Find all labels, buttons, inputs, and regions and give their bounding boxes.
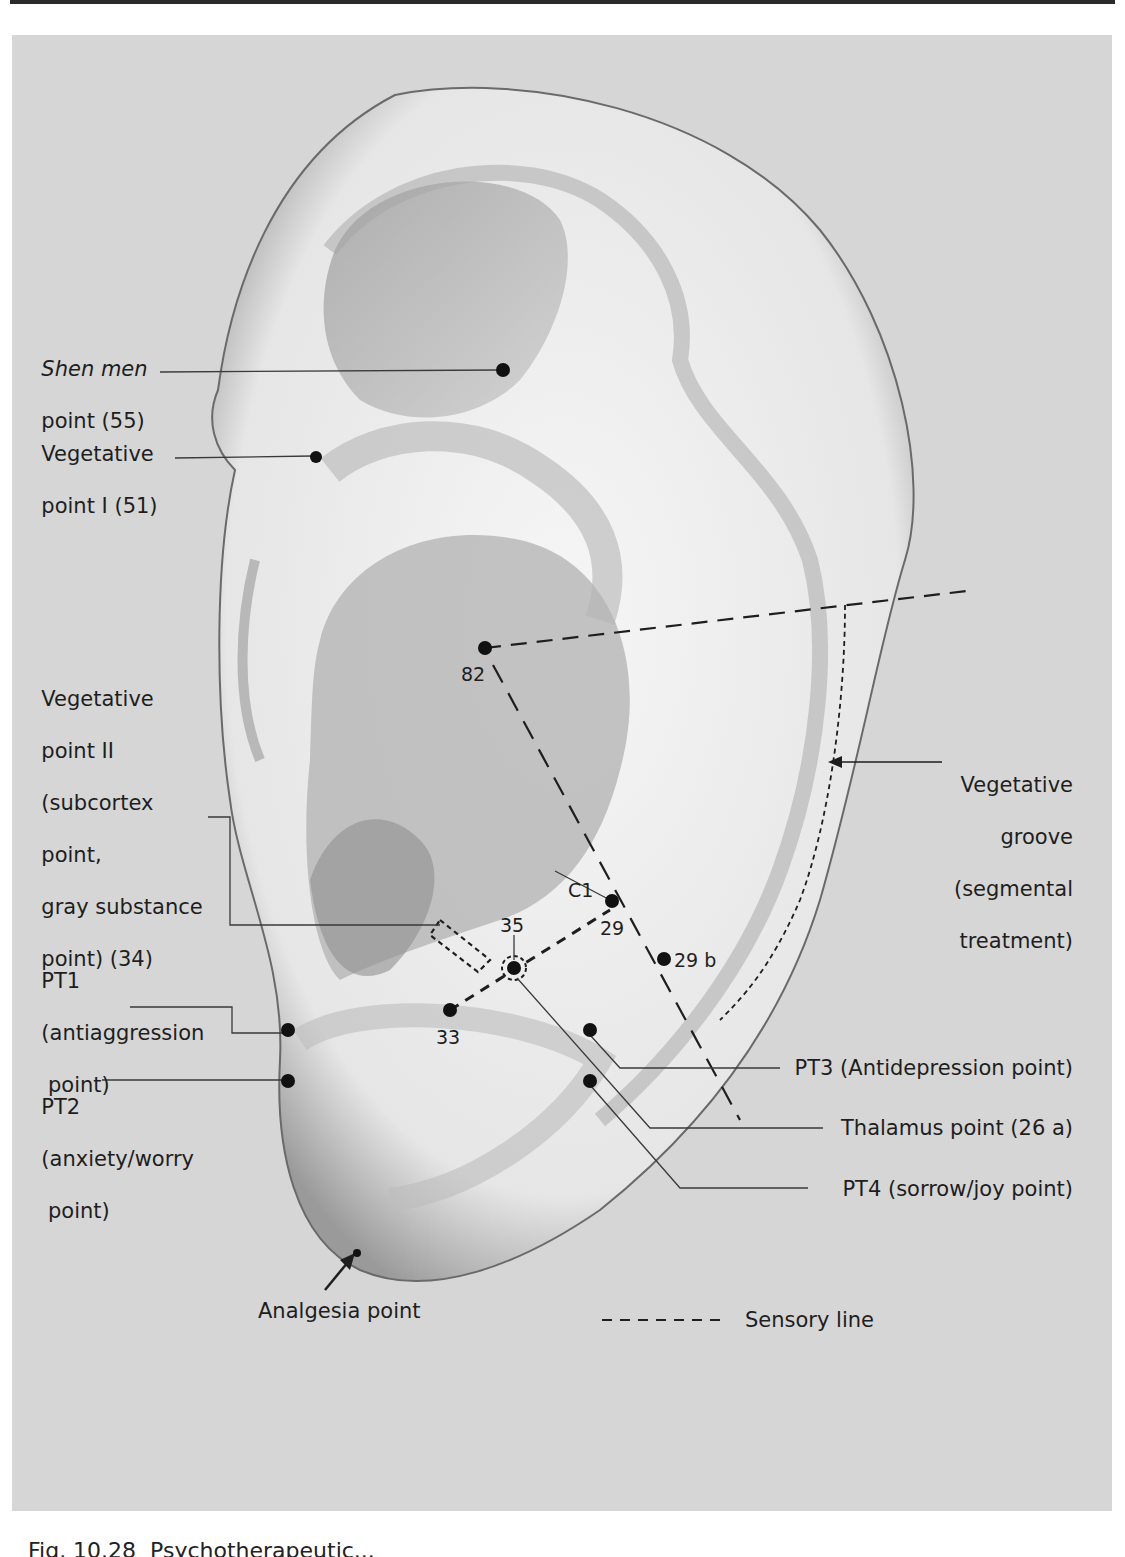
point-33	[443, 1003, 457, 1017]
label-analgesia-point: Analgesia point	[258, 1298, 421, 1324]
point-35	[507, 961, 521, 975]
number-35: 35	[500, 915, 524, 935]
point-pt4	[583, 1074, 597, 1088]
label-vegetative-point-1: Vegetative point I (51)	[28, 415, 158, 519]
number-c1: C1	[568, 880, 593, 900]
point-29	[605, 894, 619, 908]
number-33: 33	[436, 1027, 460, 1047]
number-29b: 29 b	[674, 950, 716, 970]
number-82: 82	[461, 664, 485, 684]
point-29b	[657, 952, 671, 966]
label-pt4: PT4 (sorrow/joy point)	[842, 1176, 1073, 1202]
label-thalamus: Thalamus point (26 a)	[841, 1115, 1073, 1141]
point-pt2	[281, 1074, 295, 1088]
label-pt3: PT3 (Antidepression point)	[795, 1055, 1073, 1081]
point-51	[310, 451, 322, 463]
label-vegetative-point-2: Vegetative point II (subcortex point, gr…	[28, 660, 203, 972]
number-29: 29	[600, 918, 624, 938]
label-vegetative-groove: Vegetative groove (segmental treatment)	[941, 746, 1073, 954]
point-82	[478, 641, 492, 655]
label-pt2: PT2 (anxiety/worry point)	[28, 1068, 194, 1224]
figure-caption: Fig. 10.28 Psychotherapeutic...	[28, 1538, 375, 1557]
point-analgesia	[353, 1249, 361, 1257]
point-pt1	[281, 1023, 295, 1037]
legend-sensory-line: Sensory line	[745, 1307, 874, 1333]
point-55	[496, 363, 510, 377]
point-pt3	[583, 1023, 597, 1037]
